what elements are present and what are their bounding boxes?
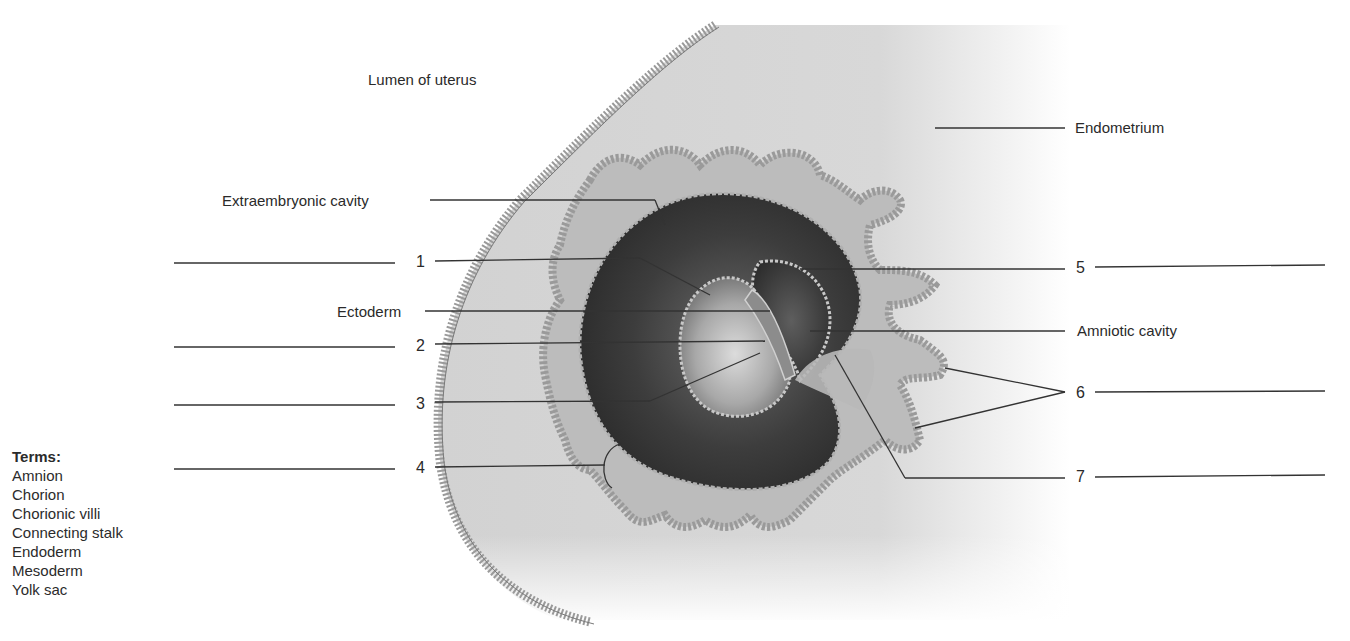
embryo-implantation-illustration xyxy=(0,0,1350,641)
number-label-5: 5 xyxy=(1076,259,1085,277)
term-item: Amnion xyxy=(12,466,123,485)
answer-blank-5[interactable] xyxy=(1095,258,1325,272)
number-label-1: 1 xyxy=(416,253,425,271)
term-item: Endoderm xyxy=(12,542,123,561)
number-label-2: 2 xyxy=(416,337,425,355)
number-label-3: 3 xyxy=(416,395,425,413)
term-item: Mesoderm xyxy=(12,561,123,580)
term-item: Chorion xyxy=(12,485,123,504)
label-endometrium: Endometrium xyxy=(1075,119,1164,137)
term-item: Chorionic villi xyxy=(12,504,123,523)
answer-blank-2[interactable] xyxy=(174,339,395,353)
term-item: Yolk sac xyxy=(12,580,123,599)
terms-list: Terms: Amnion Chorion Chorionic villi Co… xyxy=(12,447,123,599)
answer-blank-7[interactable] xyxy=(1095,468,1325,482)
answer-blank-3[interactable] xyxy=(174,397,395,411)
answer-blank-1[interactable] xyxy=(174,255,395,269)
term-item: Connecting stalk xyxy=(12,523,123,542)
terms-title: Terms: xyxy=(12,447,123,466)
label-amniotic-cavity: Amniotic cavity xyxy=(1077,322,1177,340)
label-ectoderm: Ectoderm xyxy=(337,303,401,321)
number-label-4: 4 xyxy=(416,459,425,477)
answer-blank-4[interactable] xyxy=(174,461,395,475)
number-label-7: 7 xyxy=(1076,468,1085,486)
label-extraembryonic-cavity: Extraembryonic cavity xyxy=(222,192,369,210)
label-lumen-of-uterus: Lumen of uterus xyxy=(368,71,476,89)
answer-blank-6[interactable] xyxy=(1095,383,1325,397)
number-label-6: 6 xyxy=(1076,384,1085,402)
